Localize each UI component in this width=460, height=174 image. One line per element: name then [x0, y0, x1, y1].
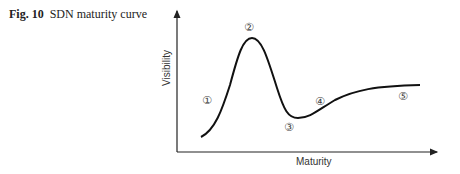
y-axis-label: Visibility [161, 50, 172, 86]
marker-4: ④ [315, 95, 325, 108]
maturity-chart: Visibility Maturity ① ② ③ ④ ⑤ [0, 0, 460, 174]
marker-2: ② [244, 21, 254, 34]
x-axis-label: Maturity [296, 156, 332, 167]
marker-3: ③ [284, 121, 294, 134]
marker-1: ① [202, 94, 212, 107]
maturity-curve [201, 38, 420, 137]
marker-5: ⑤ [398, 90, 408, 103]
